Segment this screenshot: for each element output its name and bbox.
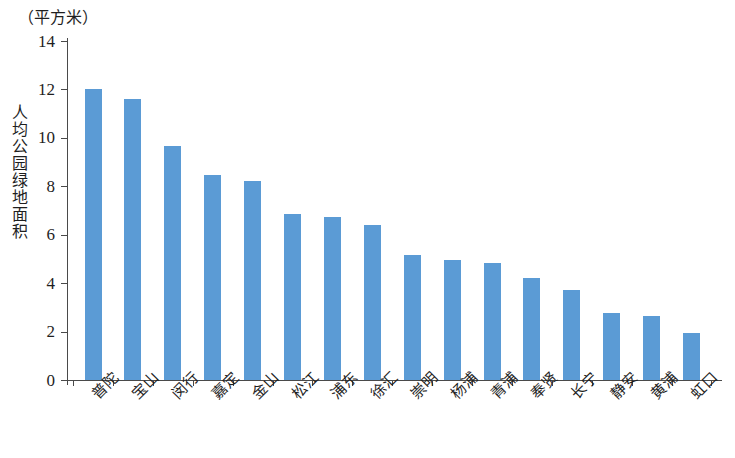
y-tick: 12	[61, 89, 67, 90]
plot-area: 02468101214	[67, 42, 722, 381]
y-tick: 6	[61, 235, 67, 236]
bar	[324, 217, 341, 380]
y-tick-label: 14	[38, 32, 55, 52]
bar	[484, 263, 501, 380]
y-axis-title: 人均公园绿地面积	[6, 104, 28, 240]
y-tick-label: 6	[47, 225, 56, 245]
bar	[683, 333, 700, 380]
bar	[244, 181, 261, 380]
y-tick: 0	[61, 380, 67, 381]
y-tick: 2	[61, 332, 67, 333]
bar	[444, 260, 461, 380]
y-axis-line	[67, 38, 68, 385]
y-tick-label: 2	[47, 322, 56, 342]
bar	[164, 146, 181, 380]
chart-figure: （平方米） 人均公园绿地面积 02468101214 普陀宝山闵行嘉定金山松江浦…	[0, 0, 735, 458]
y-tick-label: 10	[38, 128, 55, 148]
y-tick: 8	[61, 186, 67, 187]
bar	[85, 89, 102, 380]
unit-caption: （平方米）	[18, 4, 98, 28]
y-tick-label: 12	[38, 80, 55, 100]
bar	[204, 175, 221, 380]
y-tick-label: 4	[47, 274, 56, 294]
bar	[124, 99, 141, 380]
bar	[563, 290, 580, 380]
bar	[364, 225, 381, 380]
bar	[284, 214, 301, 380]
y-tick: 10	[61, 138, 67, 139]
y-tick-label: 8	[47, 177, 56, 197]
bar	[404, 255, 421, 380]
x-tick	[73, 381, 74, 386]
y-tick-label: 0	[47, 371, 56, 391]
y-tick: 14	[61, 41, 67, 42]
bar	[523, 278, 540, 380]
bar	[643, 316, 660, 380]
y-tick: 4	[61, 283, 67, 284]
bar	[603, 313, 620, 380]
